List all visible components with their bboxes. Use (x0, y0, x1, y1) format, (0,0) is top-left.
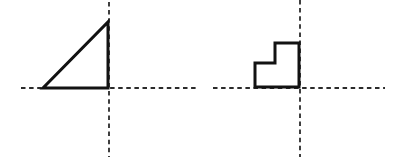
diagram-background (0, 0, 415, 168)
diagram-canvas (0, 0, 415, 168)
geometry-reflection-figure (0, 0, 415, 168)
